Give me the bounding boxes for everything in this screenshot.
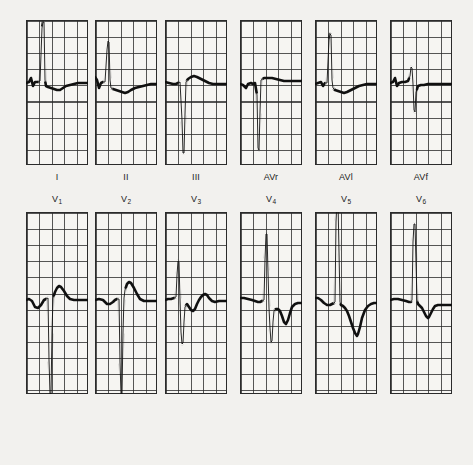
lead-label-subscript: 4 bbox=[272, 198, 276, 205]
lead-label-V1: V1 bbox=[26, 194, 88, 204]
lead-label-subscript: 2 bbox=[127, 198, 131, 205]
lead-label-subscript: 1 bbox=[58, 198, 62, 205]
lead-label-V6: V6 bbox=[390, 194, 452, 204]
lead-label-subscript: 5 bbox=[347, 198, 351, 205]
lead-label-subscript: 3 bbox=[197, 198, 201, 205]
ecg-sheet: I II III AVr AVl AVf V1 V2 V3 V4 V5 V6 bbox=[0, 0, 473, 465]
lead-label-V4: V4 bbox=[240, 194, 302, 204]
lead-label-subscript: 6 bbox=[422, 198, 426, 205]
chest-lead-labels: V1 V2 V3 V4 V5 V6 bbox=[0, 0, 473, 465]
lead-label-V2: V2 bbox=[95, 194, 157, 204]
lead-label-V3: V3 bbox=[165, 194, 227, 204]
lead-label-V5: V5 bbox=[315, 194, 377, 204]
